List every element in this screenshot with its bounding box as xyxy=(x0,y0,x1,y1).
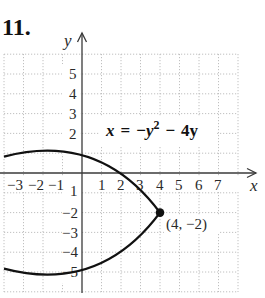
parabola-graph: 11. x y −3 xyxy=(0,0,265,298)
y-tick: −4 xyxy=(62,244,78,260)
vertex-point xyxy=(156,208,165,217)
vertex-label: (4, −2) xyxy=(166,216,207,233)
x-tick: −1 xyxy=(48,177,64,193)
x-tick: 7 xyxy=(214,177,222,193)
y-tick: 2 xyxy=(69,126,77,142)
y-tick: 3 xyxy=(69,106,77,122)
x-tick: 2 xyxy=(117,177,125,193)
x-tick: 1 xyxy=(98,177,106,193)
x-tick: 4 xyxy=(156,177,164,193)
problem-number: 11. xyxy=(2,14,31,40)
x-tick: −2 xyxy=(28,177,44,193)
y-tick: −2 xyxy=(62,205,78,221)
y-tick: 1 xyxy=(70,183,78,199)
y-tick: 5 xyxy=(69,66,77,82)
x-tick: −3 xyxy=(7,177,23,193)
x-tick: 6 xyxy=(195,177,203,193)
x-axis-label: x xyxy=(249,176,258,195)
y-tick: −3 xyxy=(62,225,78,241)
y-axis-label: y xyxy=(62,31,72,50)
x-tick: 5 xyxy=(175,177,183,193)
y-tick: 4 xyxy=(69,86,77,102)
